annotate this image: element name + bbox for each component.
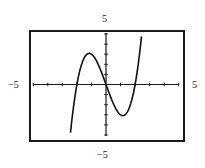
graph-window	[0, 0, 205, 168]
